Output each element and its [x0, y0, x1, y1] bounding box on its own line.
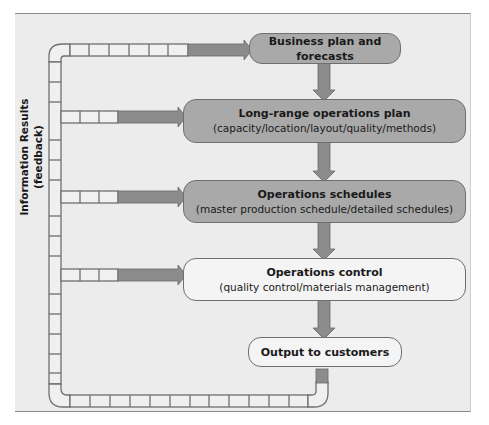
box-operations-schedules: Operations schedules (master production … — [183, 180, 466, 223]
box-operations-control-title: Operations control — [266, 265, 382, 280]
box-operations-control-subtitle: (quality control/materials management) — [219, 280, 429, 295]
box-operations-schedules-title: Operations schedules — [257, 187, 391, 202]
arrow-business-to-longrange — [313, 63, 335, 101]
output-outflow — [316, 369, 328, 383]
arrow-control-to-output — [313, 300, 335, 339]
feedback-label: Information Results (feedback) — [17, 97, 51, 217]
box-long-range-plan-subtitle: (capacity/location/layout/quality/method… — [213, 121, 436, 136]
arrow-to-control — [118, 265, 186, 285]
box-business-plan-title: Business plan and — [269, 34, 382, 49]
arrow-to-business-plan — [188, 40, 252, 60]
box-output-title: Output to customers — [261, 345, 390, 360]
box-operations-control: Operations control (quality control/mate… — [183, 258, 466, 301]
box-business-plan-title2: forecasts — [296, 49, 354, 64]
arrow-longrange-to-schedules — [313, 142, 335, 182]
arrow-schedules-to-control — [313, 222, 335, 260]
feedback-label-line2: (feedback) — [31, 97, 45, 217]
box-long-range-plan: Long-range operations plan (capacity/loc… — [183, 99, 466, 143]
arrow-to-long-range — [118, 107, 186, 127]
box-long-range-plan-title: Long-range operations plan — [238, 106, 410, 121]
feedback-label-line1: Information Results — [17, 97, 31, 217]
box-output: Output to customers — [248, 337, 402, 367]
box-business-plan: Business plan and forecasts — [249, 33, 401, 64]
box-operations-schedules-subtitle: (master production schedule/detailed sch… — [196, 202, 453, 217]
arrow-to-schedules — [118, 187, 186, 207]
